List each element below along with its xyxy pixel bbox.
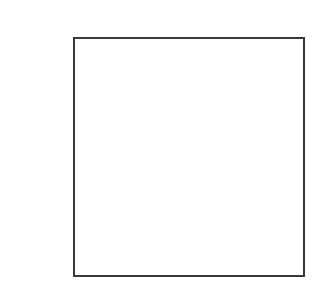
square-outline-shape: [73, 37, 305, 277]
diagram-canvas: [0, 0, 332, 290]
